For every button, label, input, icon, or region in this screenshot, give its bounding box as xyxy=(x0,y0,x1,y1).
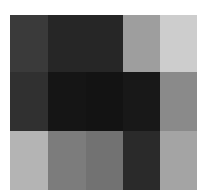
grid-cell-r1-c3 xyxy=(86,15,123,72)
grid-cell-r3-c3 xyxy=(86,131,123,190)
grid-cell-r1-c5 xyxy=(160,15,197,72)
grid-cell-r3-c1 xyxy=(10,131,48,190)
grid-cell-r3-c4 xyxy=(123,131,160,190)
grayscale-block-grid xyxy=(10,15,197,190)
grid-cell-r1-c1 xyxy=(10,15,48,72)
grid-cell-r3-c2 xyxy=(48,131,86,190)
grid-cell-r2-c2 xyxy=(48,72,86,131)
grid-cell-r1-c4 xyxy=(123,15,160,72)
grid-cell-r2-c5 xyxy=(160,72,197,131)
grid-cell-r2-c1 xyxy=(10,72,48,131)
grid-cell-r1-c2 xyxy=(48,15,86,72)
grid-cell-r2-c4 xyxy=(123,72,160,131)
grid-cell-r2-c3 xyxy=(86,72,123,131)
image-canvas xyxy=(0,0,206,195)
grid-cell-r3-c5 xyxy=(160,131,197,190)
